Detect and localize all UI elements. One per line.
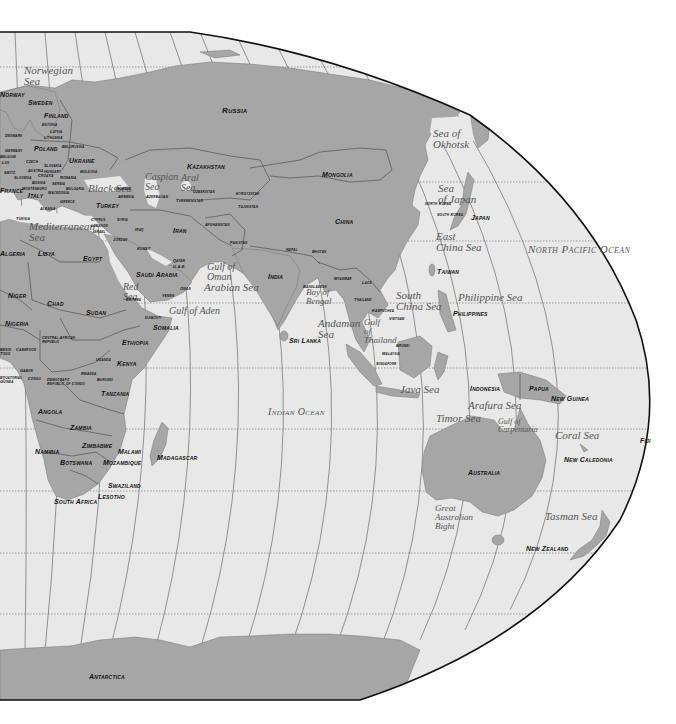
label-czech: Czech — [26, 160, 38, 164]
label-north-pacific: North Pacific Ocean — [528, 243, 630, 255]
label-caspian-sea: CaspianSea — [145, 172, 178, 192]
label-bay-of-bengal: Bay ofBengal — [306, 288, 332, 306]
label-moldova: Moldova — [80, 170, 97, 174]
label-sweden: Sweden — [28, 99, 52, 106]
label-coral-sea: Coral Sea — [555, 430, 599, 441]
label-gulf-of-carpentaria: Gulf ofCarpentaria — [498, 418, 538, 434]
label-israel: Israel — [93, 230, 105, 234]
label-qatar: Qatar — [173, 259, 185, 263]
label-new-caledonia: New Caledonia — [564, 456, 613, 463]
label-arabian-sea: Arabian Sea — [204, 282, 259, 293]
label-equatorial-guinea: EquatorialGuinea — [0, 376, 22, 384]
label-gulf-of-aden: Gulf of Aden — [169, 306, 220, 316]
label-iran: Iran — [173, 227, 187, 234]
label-lithuania: Lithuania — [44, 136, 63, 140]
label-azerbaijan: Azerbaijan — [146, 195, 168, 199]
label-ethiopia: Ethiopia — [122, 339, 149, 346]
label-cameroon: Cameroon — [16, 348, 36, 352]
label-djibouti: Djibouti — [145, 316, 161, 320]
label-poland: Poland — [34, 145, 58, 152]
label-lesotho: Lesotho — [98, 493, 125, 500]
label-belgium: Belgium — [0, 155, 16, 159]
label-kenya: Kenya — [117, 360, 137, 367]
label-lux: Lux. — [2, 161, 11, 165]
label-south-china-sea: SouthChina Sea — [396, 290, 442, 312]
label-malaysia: Malaysia — [382, 352, 400, 356]
label-nigeria: Nigeria — [5, 320, 29, 327]
land-tasmania — [492, 535, 504, 545]
label-laos: Laos — [362, 281, 372, 285]
label-lebanon: Lebanon — [91, 224, 108, 228]
label-thailand: Thailand — [354, 298, 372, 302]
label-gabon: Gabon — [20, 369, 33, 373]
label-mozambique: Mozambique — [103, 459, 141, 466]
label-east-china-sea: EastChina Sea — [436, 231, 482, 253]
label-afghanistan: Afghanistan — [205, 223, 230, 227]
label-norwegian-sea: NorwegianSea — [24, 65, 73, 87]
label-antarctica: Antarctica — [89, 673, 125, 680]
label-burundi: Burundi — [97, 378, 113, 382]
label-estonia: Estonia — [42, 123, 57, 127]
label-bhutan: Bhutan — [312, 250, 326, 254]
label-iraq: Iraq — [135, 228, 144, 232]
label-pakistan: Pakistan — [230, 241, 247, 245]
label-java-sea: Java Sea — [400, 384, 439, 395]
label-vietnam: Vietnam — [389, 317, 405, 321]
label-bangladesh: Bangladesh — [303, 285, 327, 289]
label-indonesia: Indonesia — [470, 385, 500, 392]
label-north-korea: North Korea — [425, 202, 451, 206]
label-ukraine: Ukraine — [69, 157, 95, 164]
label-swaziland: Swaziland — [108, 482, 141, 489]
label-tanzania: Tanzania — [101, 390, 129, 397]
label-syria: Syria — [117, 218, 128, 222]
label-nepal: Nepal — [286, 248, 298, 252]
label-philippine-sea: Philippine Sea — [458, 292, 522, 303]
label-bosnia: Bosnia — [32, 181, 46, 185]
label-timor-sea: Timor Sea — [436, 413, 481, 424]
label-philippines: Philippines — [453, 310, 488, 317]
label-slovakia: Slovakia — [44, 164, 62, 168]
label-gulf-of-thailand: GulfofThailand — [364, 318, 397, 345]
label-indian: Indian Ocean — [268, 406, 325, 417]
label-myanmar: Myanmar — [334, 277, 352, 281]
land-sri-lanka — [280, 331, 288, 341]
label-central-african-republic: Central AfricanRepublic — [42, 336, 75, 344]
label-georgia: Georgia — [114, 187, 130, 191]
label-new-zealand: New Zealand — [526, 545, 568, 552]
label-albania: Albania — [40, 207, 56, 211]
label-jordan: Jordan — [113, 238, 127, 242]
label-macedonia: Macedonia — [48, 191, 69, 195]
label-montenegro: Montenegro — [22, 187, 47, 191]
label-italy: Italy — [28, 192, 43, 199]
label-croatia: Croatia — [38, 174, 54, 178]
label-singapore: Singapore — [376, 362, 396, 366]
label-niger: Niger — [8, 292, 26, 299]
label-norway: Norway — [0, 91, 25, 98]
label-south-korea: South Korea — [437, 213, 463, 217]
label-rwanda: Rwanda — [81, 372, 96, 376]
label-turkmenistan: Turkmenistan — [176, 199, 203, 203]
label-tasman-sea: Tasman Sea — [545, 511, 597, 522]
label-democratic-republic-of-congo: DemocraticRepublic of Congo — [47, 378, 85, 386]
label-greece: Greece — [60, 200, 75, 204]
label-mediterranean-sea: MediterraneanSea — [29, 221, 95, 243]
label-romania: Romania — [60, 176, 76, 180]
label-eritrea: Eritrea — [126, 298, 141, 302]
label-japan: Japan — [471, 214, 490, 221]
label-zambia: Zambia — [70, 424, 92, 431]
label-congo: Congo — [28, 377, 41, 381]
label-tunisia: Tunisia — [16, 217, 30, 221]
label-cyprus: Cyprus — [91, 218, 105, 222]
label-zimbabwe: Zimbabwe — [82, 442, 112, 449]
label-somalia: Somalia — [153, 324, 179, 331]
label-france: France — [0, 187, 23, 194]
label-mongolia: Mongolia — [322, 171, 353, 178]
label-serbia: Serbia — [52, 182, 65, 186]
label-fiji: Fiji — [640, 437, 651, 444]
label-saudi-arabia: Saudi Arabia — [136, 271, 178, 278]
label-botswana: Botswana — [60, 459, 92, 466]
label-finland: Finland — [44, 112, 69, 119]
label-kuwait: Kuwait — [137, 247, 151, 251]
label-madagascar: Madagascar — [157, 454, 197, 461]
label-taiwan: Taiwan — [437, 268, 459, 275]
